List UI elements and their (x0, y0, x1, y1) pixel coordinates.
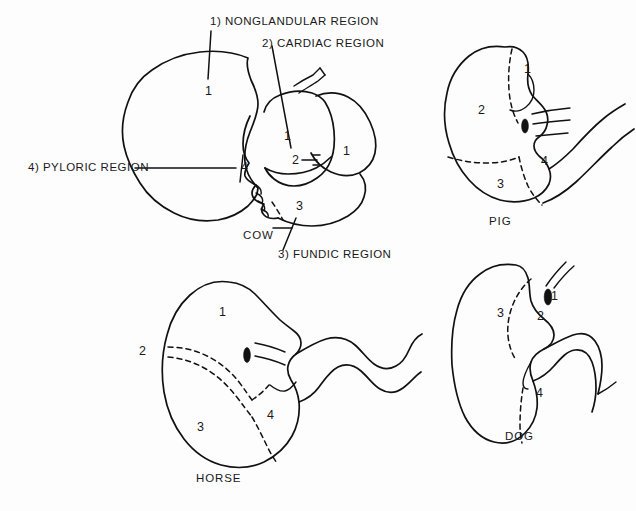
pig-region-number-4: 4 (541, 155, 548, 168)
dog-species-label: DOG (505, 431, 534, 443)
horse-vessel-a (255, 343, 285, 352)
cow-abomasum-outline (278, 174, 365, 226)
cow-region-number-3: 3 (296, 200, 303, 213)
cow-region-number-2: 2 (292, 154, 299, 167)
horse-region-number-1: 1 (219, 306, 226, 319)
cow-esophagus-cap (320, 68, 325, 75)
dog-boundary-3-2 (508, 279, 531, 360)
pig-region-number-2: 2 (478, 104, 485, 117)
cow-leader-nonglandular (208, 31, 211, 79)
pig-duodenum-upper (549, 104, 625, 169)
pig-duodenum-lower (543, 129, 634, 203)
horse-boundary-cardia-link (252, 385, 269, 400)
horse-duodenum-lower (299, 365, 421, 402)
dog-stomach-outline (452, 264, 554, 443)
dog-region-number-1: 1 (551, 290, 558, 303)
cow-omasum-outline (311, 93, 376, 175)
horse-stomach-outline (162, 282, 301, 468)
cow-region-number-4: 4 (241, 161, 248, 174)
cow-diagram (122, 31, 375, 250)
pig-species-label: PIG (489, 216, 512, 228)
legend-fundic-label: 3) FUNDIC REGION (278, 249, 391, 261)
cow-region-number-1-central: 1 (284, 130, 291, 143)
dog-region-number-4: 4 (536, 387, 543, 400)
horse-boundary-2-3 (168, 357, 252, 417)
pig-diagram (445, 46, 634, 205)
horse-diagram (162, 282, 422, 468)
horse-duodenum-upper (296, 334, 422, 368)
cow-esophagus-wall (299, 75, 325, 93)
cow-rumen-outline (122, 51, 258, 220)
dog-duodenum-lower (533, 350, 596, 412)
horse-cardia-marker (244, 348, 251, 363)
comparative-stomach-figure: 1) NONGLANDULAR REGION 2) CARDIAC REGION… (0, 0, 636, 511)
pig-boundary-1-2 (509, 49, 518, 123)
horse-species-label: HORSE (196, 473, 241, 485)
dog-region-number-3: 3 (497, 307, 504, 320)
pig-cardia-marker (522, 119, 529, 133)
pig-vessel-b (533, 120, 570, 124)
horse-region-number-3: 3 (197, 421, 204, 434)
pig-region-number-3: 3 (497, 178, 504, 191)
dog-region-number-2: 2 (537, 310, 544, 323)
horse-boundary-1-2 (168, 347, 252, 400)
dog-esophagus-b (554, 266, 574, 288)
cow-species-label: COW (243, 230, 274, 242)
horse-region-number-4: 4 (267, 409, 274, 422)
pig-region-number-1: 1 (524, 63, 531, 76)
cow-esophagus (294, 68, 320, 86)
horse-region-number-2: 2 (139, 345, 146, 358)
pig-boundary-2-3 (448, 157, 519, 163)
legend-cardiac-label: 2) CARDIAC REGION (262, 38, 384, 50)
pig-vessel-a (532, 108, 570, 114)
cow-region-number-1-omasum: 1 (343, 145, 350, 158)
dog-esophagus-a (546, 262, 566, 286)
cow-region-number-1-rumen: 1 (205, 85, 212, 98)
legend-pyloric-label: 4) PYLORIC REGION (28, 162, 149, 174)
horse-vessel-b (255, 356, 285, 365)
pig-boundary-3-4 (519, 157, 542, 205)
legend-nonglandular-label: 1) NONGLANDULAR REGION (210, 16, 379, 28)
dog-diagram (452, 262, 616, 443)
